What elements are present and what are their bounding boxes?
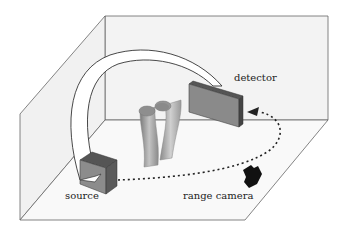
- diagram: detector source range camera: [0, 0, 345, 234]
- scene-svg: [0, 0, 345, 234]
- range-camera-label: range camera: [183, 191, 253, 201]
- detector-label: detector: [234, 73, 277, 83]
- source-label: source: [65, 191, 99, 201]
